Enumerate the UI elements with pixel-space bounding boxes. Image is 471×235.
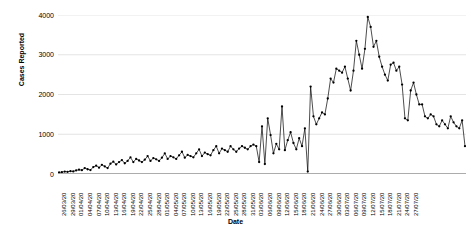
data-point — [215, 145, 217, 147]
data-point — [461, 119, 463, 121]
data-point — [347, 77, 349, 79]
data-point — [355, 40, 357, 42]
data-point — [64, 170, 66, 172]
data-point — [198, 148, 200, 150]
data-point — [187, 154, 189, 156]
y-tick-label: 2000 — [24, 91, 54, 98]
data-point — [169, 155, 171, 157]
x-tick-label: 24/06/20 — [319, 193, 325, 216]
line-chart: Cases Reported 01000200030004000 26/03/2… — [0, 0, 471, 235]
data-point — [112, 161, 114, 163]
data-point — [341, 71, 343, 73]
data-point — [84, 167, 86, 169]
data-point — [352, 70, 354, 72]
data-point — [135, 158, 137, 160]
data-point — [152, 157, 154, 159]
data-point — [218, 152, 220, 154]
data-point — [418, 103, 420, 105]
data-point — [195, 152, 197, 154]
data-point — [415, 93, 417, 95]
data-point — [269, 134, 271, 136]
data-point — [118, 161, 120, 163]
data-point — [364, 48, 366, 50]
data-point — [81, 169, 83, 171]
data-point — [430, 113, 432, 115]
data-point — [89, 169, 91, 171]
data-point — [318, 117, 320, 119]
data-point — [61, 171, 63, 173]
data-point — [438, 125, 440, 127]
x-tick-label: 24/07/20 — [404, 193, 410, 216]
data-point — [78, 168, 80, 170]
data-point — [261, 125, 263, 127]
x-tick-label: 27/06/20 — [327, 193, 333, 216]
data-point — [106, 167, 108, 169]
data-point — [146, 155, 148, 157]
data-point — [421, 103, 423, 105]
data-point — [155, 158, 157, 160]
x-tick-label: 18/06/20 — [301, 193, 307, 216]
data-point — [221, 147, 223, 149]
data-point — [410, 89, 412, 91]
data-point — [129, 156, 131, 158]
data-point — [344, 66, 346, 68]
x-tick-label: 06/07/20 — [353, 193, 359, 216]
x-tick-label: 07/05/20 — [181, 193, 187, 216]
data-point — [115, 163, 117, 165]
data-point — [167, 158, 169, 160]
data-point — [375, 40, 377, 42]
x-tick-label: 15/06/20 — [293, 193, 299, 216]
data-point — [321, 111, 323, 113]
data-point — [458, 127, 460, 129]
data-point — [307, 170, 309, 172]
data-point — [452, 121, 454, 123]
data-point — [201, 155, 203, 157]
x-tick-label: 03/06/20 — [258, 193, 264, 216]
data-point — [232, 148, 234, 150]
data-point — [98, 166, 100, 168]
x-tick-label: 01/04/20 — [78, 193, 84, 216]
data-point — [464, 145, 466, 147]
data-point — [327, 97, 329, 99]
data-point — [66, 171, 68, 173]
x-tick-label: 22/04/20 — [138, 193, 144, 216]
data-point — [281, 105, 283, 107]
x-tick-label: 21/06/20 — [310, 193, 316, 216]
data-point — [126, 160, 128, 162]
y-tick-label: 3000 — [24, 51, 54, 58]
y-tick-label: 1000 — [24, 131, 54, 138]
data-point — [401, 83, 403, 85]
data-point — [258, 161, 260, 163]
data-point — [450, 115, 452, 117]
x-tick-label: 12/06/20 — [284, 193, 290, 216]
data-point — [392, 62, 394, 64]
x-tick-label: 30/06/20 — [336, 193, 342, 216]
x-tick-label: 21/07/20 — [396, 193, 402, 216]
x-tick-label: 07/04/20 — [96, 193, 102, 216]
data-point — [184, 157, 186, 159]
data-point — [178, 154, 180, 156]
data-point — [144, 159, 146, 161]
data-point — [164, 152, 166, 154]
data-point — [447, 127, 449, 129]
data-point — [301, 145, 303, 147]
data-point — [378, 56, 380, 58]
x-tick-label: 26/03/20 — [61, 193, 67, 216]
data-point — [395, 70, 397, 72]
x-tick-label: 09/06/20 — [276, 193, 282, 216]
x-tick-label: 12/07/20 — [370, 193, 376, 216]
x-tick-label: 09/07/20 — [361, 193, 367, 216]
data-point — [367, 16, 369, 18]
series-canvas — [58, 15, 466, 174]
data-point — [412, 81, 414, 83]
data-point — [398, 66, 400, 68]
x-tick-label: 10/05/20 — [190, 193, 196, 216]
data-point — [92, 166, 94, 168]
y-tick-label: 4000 — [24, 12, 54, 19]
data-point — [192, 156, 194, 158]
x-tick-label: 28/04/20 — [156, 193, 162, 216]
data-point — [455, 125, 457, 127]
data-point — [72, 170, 74, 172]
data-point — [204, 151, 206, 153]
data-point — [247, 148, 249, 150]
